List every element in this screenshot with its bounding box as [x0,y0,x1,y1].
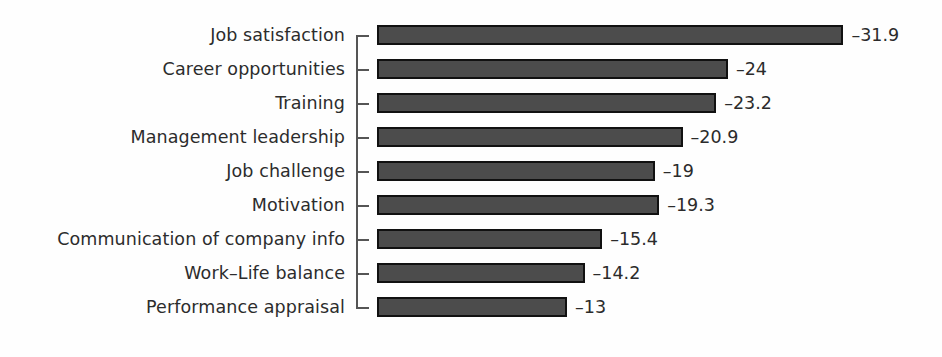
bar-row: Performance appraisal–13 [0,297,942,331]
value-label: –14.2 [593,262,641,284]
category-label: Motivation [0,195,345,215]
bar-row: Job challenge–19 [0,161,942,195]
category-label: Performance appraisal [0,297,345,317]
category-label: Career opportunities [0,59,345,79]
category-label: Job satisfaction [0,25,345,45]
bar [377,127,683,147]
bar-fill [377,93,716,113]
value-label: –20.9 [691,126,739,148]
category-label: Management leadership [0,127,345,147]
value-label: –23.2 [724,92,772,114]
bar [377,263,585,283]
bar-row: Motivation–19.3 [0,195,942,229]
value-label: –15.4 [610,228,658,250]
bar [377,297,567,317]
bar-fill [377,229,602,249]
bar [377,93,716,113]
value-label: –13 [575,296,606,318]
bar [377,229,602,249]
value-label: –24 [736,58,767,80]
category-label: Communication of company info [0,229,345,249]
plot-area: Job satisfaction–31.9Career opportunitie… [0,0,942,357]
bar-fill [377,161,655,181]
category-label: Training [0,93,345,113]
bar [377,161,655,181]
bar-row: Work–Life balance–14.2 [0,263,942,297]
bar-fill [377,25,843,45]
bar-row: Job satisfaction–31.9 [0,25,942,59]
value-label: –19 [663,160,694,182]
bar [377,195,659,215]
bar-row: Communication of company info–15.4 [0,229,942,263]
bar-fill [377,59,728,79]
bar-row: Career opportunities–24 [0,59,942,93]
bar-chart: Job satisfaction–31.9Career opportunitie… [0,0,942,357]
bar-fill [377,195,659,215]
bar-fill [377,297,567,317]
bar-row: Management leadership–20.9 [0,127,942,161]
bar-fill [377,127,683,147]
bar-row: Training–23.2 [0,93,942,127]
category-label: Job challenge [0,161,345,181]
bar [377,59,728,79]
bar-fill [377,263,585,283]
value-label: –19.3 [667,194,715,216]
value-label: –31.9 [851,24,899,46]
bar [377,25,843,45]
category-label: Work–Life balance [0,263,345,283]
